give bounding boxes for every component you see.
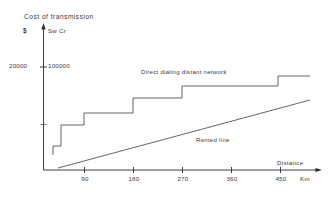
x-tick-label-360: 360: [223, 176, 241, 182]
x-tick-label-270: 270: [174, 176, 192, 182]
series-label-rented-line: Rented line: [196, 137, 230, 143]
x-tick-label-450: 450: [272, 176, 290, 182]
x-axis-unit-label: Km: [300, 176, 310, 182]
chart-title: Cost of transmission: [24, 14, 94, 21]
x-tick-label-90: 90: [76, 176, 94, 182]
series-label-direct-dialing: Direct dialing distant network: [141, 69, 227, 75]
y-tick-label-left: 20000: [9, 63, 27, 69]
series-step-direct-dialing: [53, 76, 310, 155]
x-axis-name-label: Distance: [277, 160, 303, 166]
y-tick-label-right: 100000: [48, 63, 70, 69]
series-line-rented: [58, 100, 310, 168]
y-axis: [41, 23, 45, 170]
y-unit-right-label: Sw Cr: [48, 28, 66, 34]
chart-figure: Cost of transmission $ Sw Cr 20000 10000…: [0, 0, 329, 197]
x-tick-label-180: 180: [125, 176, 143, 182]
y-unit-left-label: $: [23, 28, 27, 34]
